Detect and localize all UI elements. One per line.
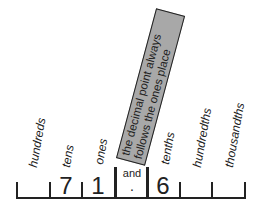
label-hundredths: hundredths [190,107,214,169]
label-tens: tens [59,144,77,169]
digit-ones: 1 [83,174,113,198]
tick [244,182,246,198]
digit-tens: 7 [51,174,81,198]
label-thousandths: thousandths [222,102,247,169]
tick [211,182,213,198]
decimal-point: . [117,178,147,194]
label-hundreds: hundreds [26,117,48,169]
digit-tenths: 6 [148,174,178,198]
tick [16,182,18,198]
tick [179,182,181,198]
label-tenths: tenths [158,131,177,166]
label-ones: ones [92,137,110,165]
